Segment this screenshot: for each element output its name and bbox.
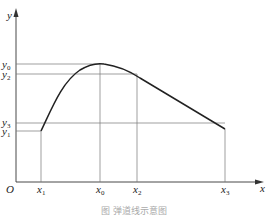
trajectory-diagram: y x O y0 y2 y3 y1 x1 x0 x2 x3 图 弹道线示意图 bbox=[0, 0, 268, 216]
figure-caption: 图 弹道线示意图 bbox=[101, 205, 167, 216]
x2-label: x2 bbox=[132, 183, 142, 197]
x3-label: x3 bbox=[220, 183, 230, 197]
origin-label: O bbox=[6, 183, 14, 195]
y-axis-arrow-icon bbox=[14, 8, 19, 17]
x1-label: x1 bbox=[36, 183, 46, 197]
x0-label: x0 bbox=[95, 183, 105, 197]
y-axis-label: y bbox=[6, 9, 12, 21]
x-axis-label: x bbox=[259, 182, 265, 194]
